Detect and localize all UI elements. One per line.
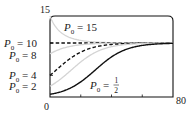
label-p0-half: P0 = 1 2 [89,76,119,95]
curve-p0-1-2 [50,43,173,94]
x-max-label: 80 [176,95,186,106]
y-min-label: 0 [44,101,49,112]
y-max-label: 15 [40,4,50,15]
label-p0-15: P0 = 15 [63,21,97,36]
curve-p0-4 [50,43,173,75]
label-p0-2: P0 = 2 [8,80,36,95]
svg-text:P0 =: P0 = [89,79,109,94]
label-p0-8: P0 = 8 [8,49,37,64]
svg-text:2: 2 [114,86,118,95]
logistic-chart: 15 0 80 P0 = 15 P0 = 10 P0 = 8 P0 = 4 P0… [0,0,195,121]
curve-p0-2 [50,43,173,86]
svg-text:1: 1 [115,76,119,85]
